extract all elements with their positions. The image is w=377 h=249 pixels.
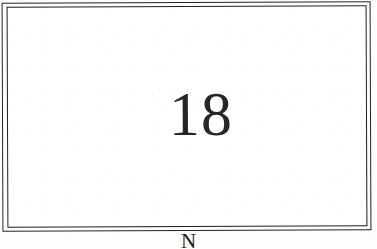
caption-text: N xyxy=(0,233,377,249)
caption-strip: N xyxy=(0,233,377,249)
scanned-page: 18 N xyxy=(0,0,377,249)
plate-number: 18 xyxy=(169,82,233,144)
plate-interior: 18 xyxy=(9,7,366,225)
